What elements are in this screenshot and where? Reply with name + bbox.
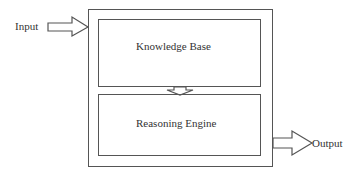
reasoning-engine-label: Reasoning Engine — [136, 117, 216, 129]
output-arrow-icon — [273, 131, 312, 155]
knowledge-base-label: Knowledge Base — [136, 40, 211, 52]
input-arrow-icon — [48, 17, 88, 36]
input-label: Input — [15, 20, 38, 32]
output-label: Output — [312, 137, 343, 149]
knowledge-base-block — [98, 19, 261, 87]
expert-system-diagram: Knowledge Base Reasoning Engine Input Ou… — [0, 0, 357, 177]
